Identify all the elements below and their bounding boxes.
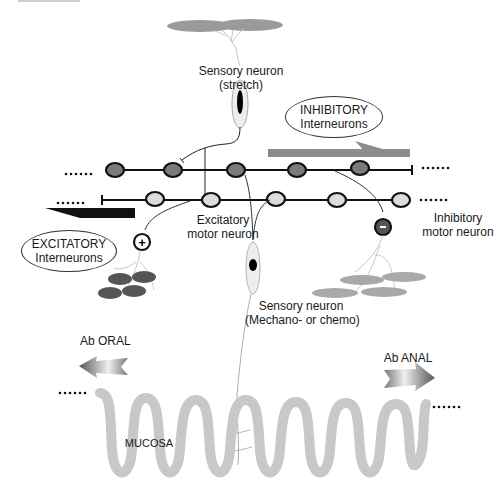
plus-sign: +	[138, 235, 146, 250]
ab-anal-label: Ab ANAL	[383, 351, 433, 365]
minus-sign	[380, 226, 386, 228]
mucosa-villi	[100, 393, 426, 473]
excitatory-target-muscle	[98, 271, 156, 299]
sensory-stretch-line1: Sensory neuron	[196, 64, 286, 78]
excitatory-interneurons-line2: Interneurons	[35, 251, 102, 265]
excitatory-motor-line2: motor neuron	[178, 227, 268, 241]
sensory-stretch-label: Sensory neuron (stretch)	[196, 64, 286, 92]
inhibitory-motor-label: Inhibitory motor neuron	[413, 211, 503, 239]
inhibitory-interneurons-bubble: INHIBITORY Interneurons	[285, 96, 383, 138]
excitatory-interneurons-bubble: EXCITATORY Interneurons	[21, 230, 117, 272]
excitatory-interneurons-line1: EXCITATORY	[32, 237, 106, 251]
inhibitory-motor-line2: motor neuron	[413, 225, 503, 239]
stretch-dendrites	[214, 28, 244, 66]
ab-oral-label: Ab ORAL	[80, 334, 130, 348]
inhibitory-interneurons-line2: Interneurons	[300, 117, 367, 131]
sensory-mechano-label: Sensory neuron (Mechano- or chemo)	[245, 299, 357, 327]
inhibitory-target-muscle	[312, 272, 426, 298]
inhibitory-motor-line1: Inhibitory	[413, 211, 503, 225]
excitatory-motor-label: Excitatory motor neuron	[178, 213, 268, 241]
excitatory-motor-line1: Excitatory	[178, 213, 268, 227]
oral-direction-arrow	[79, 356, 128, 378]
inhibitory-interneuron-chain	[106, 161, 412, 177]
excitatory-interneuron-chain	[102, 192, 410, 207]
inhibitory-interneurons-line1: INHIBITORY	[300, 103, 368, 117]
excitatory-direction-arrow	[45, 208, 135, 218]
sensory-neuron-stretch	[180, 80, 248, 205]
sensory-mechano-line1: Sensory neuron	[245, 299, 357, 313]
sensory-mechano-line2: (Mechano- or chemo)	[245, 313, 357, 327]
sensory-stretch-line2: (stretch)	[196, 78, 286, 92]
stretch-muscle-cells	[167, 19, 283, 32]
mucosa-label: MUCOSA	[124, 436, 174, 450]
anal-direction-arrow	[384, 362, 435, 391]
